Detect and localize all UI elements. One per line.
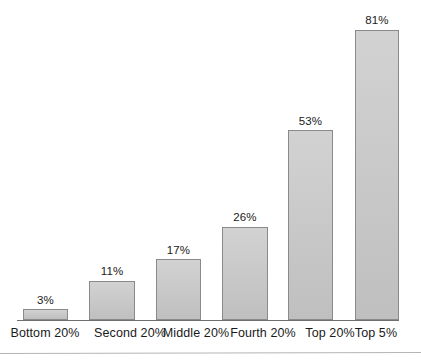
x-axis-labels: Bottom 20% Second 20% Middle 20% Fourth … bbox=[0, 326, 421, 346]
x-label-bottom-20: Bottom 20% bbox=[5, 326, 85, 340]
bar-slot-fourth-20: 26% bbox=[222, 10, 268, 320]
bar-value-label: 81% bbox=[365, 15, 388, 27]
bar-value-label: 17% bbox=[167, 245, 190, 257]
bar-slot-second-20: 11% bbox=[89, 10, 135, 320]
bar-column: 81% bbox=[355, 10, 399, 320]
bar-value-label: 53% bbox=[299, 116, 322, 128]
bar-rect-fourth-20[interactable] bbox=[222, 227, 268, 320]
bar-value-label: 11% bbox=[101, 266, 123, 278]
bar-chart: 3% 11% 17% 26% bbox=[0, 0, 421, 363]
bar-rect-bottom-20[interactable] bbox=[23, 309, 68, 320]
bar-rect-top-5[interactable] bbox=[355, 30, 399, 320]
x-axis-line bbox=[17, 320, 399, 321]
bar-rect-top-20[interactable] bbox=[288, 130, 333, 320]
bar-slot-top-20: 53% bbox=[288, 10, 333, 320]
bar-value-label: 3% bbox=[37, 295, 54, 307]
bar-slot-top-5: 81% bbox=[355, 10, 399, 320]
bar-column: 17% bbox=[156, 10, 201, 320]
bar-value-label: 26% bbox=[233, 212, 256, 224]
bar-column: 53% bbox=[288, 10, 333, 320]
bar-column: 11% bbox=[89, 10, 135, 320]
x-label-middle-20: Middle 20% bbox=[158, 326, 234, 340]
bar-slot-middle-20: 17% bbox=[156, 10, 201, 320]
x-label-top-5: Top 5% bbox=[341, 326, 411, 340]
bar-rect-second-20[interactable] bbox=[89, 281, 135, 320]
bar-rect-middle-20[interactable] bbox=[156, 259, 201, 320]
bottom-divider bbox=[0, 352, 421, 354]
bar-slot-bottom-20: 3% bbox=[23, 10, 68, 320]
plot-area: 3% 11% 17% 26% bbox=[17, 10, 399, 320]
bar-column: 3% bbox=[23, 10, 68, 320]
x-label-fourth-20: Fourth 20% bbox=[224, 326, 302, 340]
bar-column: 26% bbox=[222, 10, 268, 320]
